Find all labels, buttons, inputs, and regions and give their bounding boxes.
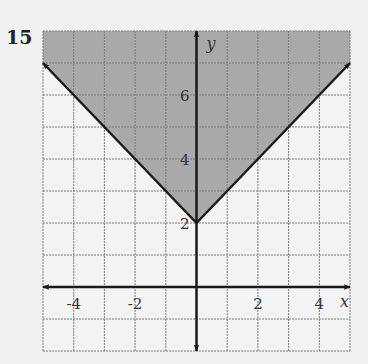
y-tick-label: 4 [180,151,190,169]
y-tick-label: 2 [180,215,190,233]
x-tick-label: -2 [128,295,143,313]
x-tick-label: 4 [315,295,325,313]
x-tick-label: 2 [253,295,263,313]
x-axis-label: x [340,292,349,311]
inequality-graph: -4-224246 x y [0,0,368,364]
x-tick-label: -4 [66,295,81,313]
y-axis-label: y [206,34,217,53]
y-tick-label: 6 [180,87,190,105]
